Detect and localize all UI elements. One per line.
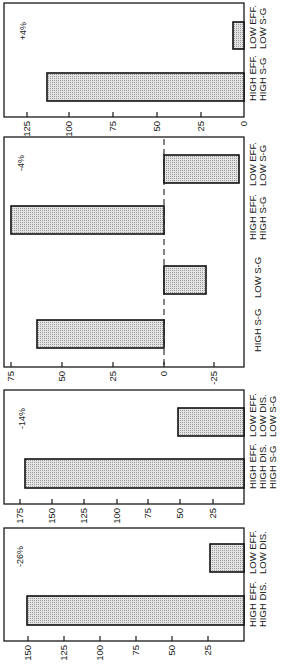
value-axis: 75 50 25 0 -25 — [5, 362, 219, 385]
tick-label: 50 — [174, 508, 185, 519]
percent-annotation: -4% — [16, 155, 26, 171]
svg-text:LOW S-G: LOW S-G — [257, 8, 268, 49]
tick-label: 125 — [58, 645, 69, 661]
value-axis: 175 150 125 100 75 50 25 — [14, 499, 218, 524]
category-labels: HIGH EFF. HIGH S-G LOW EFF. LOW S-G — [247, 5, 268, 101]
panel-3: -14% 175 150 125 100 75 50 25 HIGH EFF. … — [4, 390, 278, 524]
panel-4: -26% 150 125 100 75 50 25 HIGH EFF. HIGH… — [4, 528, 268, 661]
tick-label: 75 — [130, 645, 141, 656]
svg-text:LOW S-G: LOW S-G — [257, 145, 268, 186]
tick-label: 25 — [107, 371, 118, 382]
svg-text:HIGH S-G: HIGH S-G — [257, 58, 268, 101]
svg-text:LOW DIS.: LOW DIS. — [257, 531, 268, 574]
svg-text:LOW S-G: LOW S-G — [267, 396, 278, 437]
bar-low-eff-low-dis — [210, 544, 244, 572]
value-axis: 125 100 75 50 25 0 — [21, 112, 249, 137]
tick-label: 100 — [94, 645, 105, 661]
tick-label: 75 — [142, 508, 153, 519]
value-axis: 150 125 100 75 50 25 — [22, 636, 213, 661]
tick-label: 175 — [14, 508, 25, 524]
bar-high-eff-high-dis — [27, 596, 244, 625]
bar-low-sg — [164, 266, 206, 294]
tick-label: 25 — [195, 121, 206, 132]
tick-label: 50 — [56, 371, 67, 382]
tick-label: 75 — [5, 371, 16, 382]
tick-label: -25 — [208, 371, 219, 385]
tick-label: 100 — [63, 121, 74, 137]
category-labels: HIGH S-G LOW S-G HIGH EFF. HIGH S-G LOW … — [247, 142, 268, 352]
percent-annotation: -26% — [15, 546, 25, 567]
tick-label: 50 — [151, 121, 162, 132]
tick-label: 125 — [78, 508, 89, 524]
svg-text:HIGH S-G: HIGH S-G — [267, 446, 278, 489]
tick-label: 0 — [238, 121, 249, 126]
bar-high-eff-high-sg — [11, 206, 164, 234]
tick-label: 125 — [21, 121, 32, 137]
tick-label: 100 — [111, 508, 122, 524]
category-labels: HIGH EFF. HIGH DIS. LOW EFF. LOW DIS. — [247, 530, 268, 627]
svg-text:HIGH S-G: HIGH S-G — [257, 197, 268, 240]
tick-label: 0 — [158, 371, 169, 376]
category-labels: HIGH EFF. HIGH DIS. HIGH S-G LOW EFF. LO… — [247, 393, 278, 489]
bar-high-eff-high-sg — [47, 73, 244, 101]
bar-low-eff-low-sg — [233, 22, 244, 49]
tick-label: 25 — [202, 645, 213, 656]
tick-label: 25 — [207, 508, 218, 519]
svg-text:HIGH DIS.: HIGH DIS. — [257, 582, 268, 627]
bar-high-sg — [37, 320, 164, 348]
bar-high-eff-high-dis-high-sg — [25, 459, 244, 488]
tick-label: 75 — [107, 121, 118, 132]
panel-1: +4% 125 100 75 50 25 0 HIGH EFF. HIGH S-… — [4, 3, 268, 137]
tick-label: 150 — [46, 508, 57, 524]
percent-annotation: -14% — [17, 408, 27, 429]
bar-low-eff-low-sg — [164, 155, 239, 183]
percent-annotation: +4% — [18, 22, 28, 40]
svg-text:HIGH S-G: HIGH S-G — [252, 309, 263, 352]
tick-label: 50 — [166, 645, 177, 656]
bar-low-eff-low-dis-low-sg — [178, 408, 244, 436]
tick-label: 150 — [22, 645, 33, 661]
svg-text:LOW S-G: LOW S-G — [252, 257, 263, 298]
figure: +4% 125 100 75 50 25 0 HIGH EFF. HIGH S-… — [0, 0, 282, 669]
panel-2: -4% 75 50 25 0 -25 HIGH S-G LOW S-G HIGH… — [4, 137, 268, 385]
